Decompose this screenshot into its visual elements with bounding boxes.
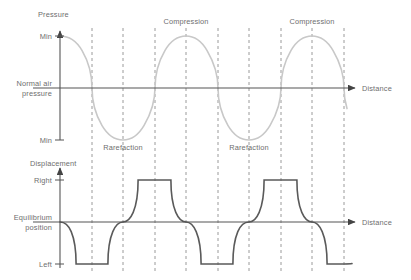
- pressure-tick-label-bottom: Min: [40, 136, 52, 145]
- displacement-tick-label-middle-line1: Equilibrium: [14, 213, 52, 222]
- annotation-compression-2: Compression: [289, 17, 334, 26]
- annotation-compression-1: Compression: [163, 17, 208, 26]
- pressure-tick-label-middle-line1: Normal air: [16, 79, 52, 88]
- displacement-tick-label-middle-line2: position: [25, 223, 52, 232]
- sound-wave-diagram: Pressure Min Normal air pressure Min Dis…: [0, 0, 411, 280]
- pressure-tick-label-top: Min: [40, 32, 52, 41]
- pressure-y-axis-label: Pressure: [38, 10, 69, 19]
- pressure-tick-label-middle-line2: pressure: [22, 89, 52, 98]
- displacement-tick-label-bottom: Left: [39, 260, 52, 269]
- annotation-rarefaction-2: Rarefaction: [229, 143, 268, 152]
- displacement-y-axis-label: Displacement: [30, 159, 77, 168]
- displacement-x-axis-label: Distance: [362, 218, 392, 227]
- pressure-x-axis-label: Distance: [362, 84, 392, 93]
- displacement-tick-label-top: Right: [34, 176, 52, 185]
- annotation-rarefaction-1: Rarefaction: [103, 143, 142, 152]
